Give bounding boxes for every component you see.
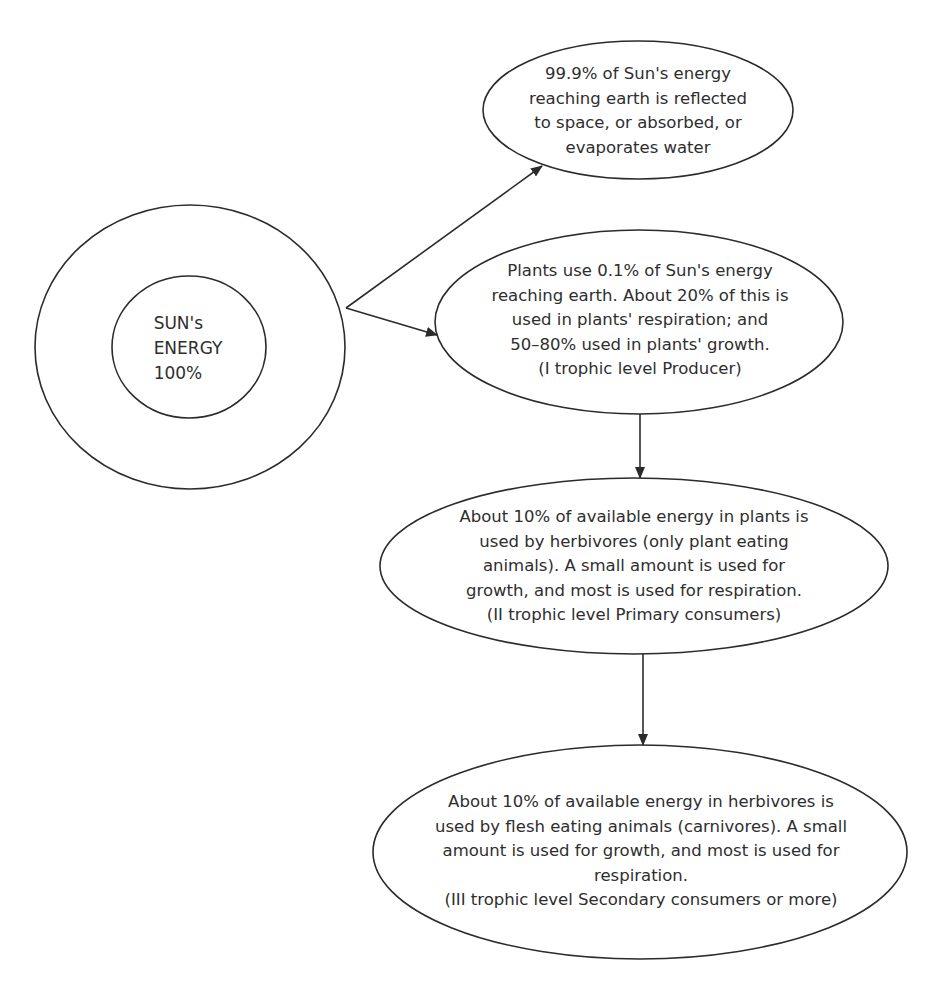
node-text-line: (II trophic level Primary consumers) (460, 603, 809, 628)
node-text-line: used in plants' respiration; and (491, 308, 788, 333)
sun-energy-label: SUN's ENERGY 100% (154, 311, 223, 386)
node-text-line: animals). A small amount is used for (460, 554, 809, 579)
sun-label-line: SUN's (154, 311, 223, 336)
node-text-line: (III trophic level Secondary consumers o… (435, 888, 847, 913)
node-text-line: evaporates water (529, 136, 747, 161)
producer-text: Plants use 0.1% of Sun's energy reaching… (491, 259, 788, 382)
node-text-line: reaching earth. About 20% of this is (491, 284, 788, 309)
node-text-line: (I trophic level Producer) (491, 357, 788, 382)
node-text-line: amount is used for growth, and most is u… (435, 839, 847, 864)
node-text-line: to space, or absorbed, or (529, 111, 747, 136)
node-text-line: 99.9% of Sun's energy (529, 62, 747, 87)
arrow-sun-to-producer (346, 308, 437, 335)
node-text-line: About 10% of available energy in plants … (460, 505, 809, 530)
primary-consumers-text: About 10% of available energy in plants … (460, 505, 809, 628)
node-text-line: growth, and most is used for respiration… (460, 579, 809, 604)
node-text-line: respiration. (435, 864, 847, 889)
node-text-line: used by flesh eating animals (carnivores… (435, 815, 847, 840)
node-text-line: reaching earth is reflected (529, 87, 747, 112)
sun-label-line: 100% (154, 361, 223, 386)
secondary-consumers-text: About 10% of available energy in herbivo… (435, 790, 847, 913)
reflected-energy-text: 99.9% of Sun's energy reaching earth is … (529, 62, 747, 160)
node-text-line: 50–80% used in plants' growth. (491, 333, 788, 358)
node-text-line: used by herbivores (only plant eating (460, 530, 809, 555)
node-text-line: Plants use 0.1% of Sun's energy (491, 259, 788, 284)
node-text-line: About 10% of available energy in herbivo… (435, 790, 847, 815)
sun-label-line: ENERGY (154, 336, 223, 361)
